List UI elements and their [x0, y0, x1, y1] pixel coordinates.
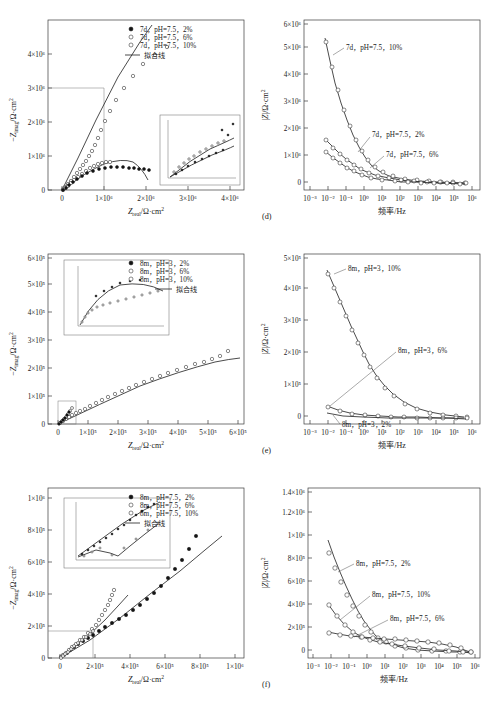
bode-e-xlabel: 频率/Hz — [378, 440, 406, 450]
legend-label-e-0: 8m，pH=3，2% — [140, 260, 189, 268]
bode-e-ylabel: |Z|/Ω·cm2 — [260, 323, 270, 354]
legend-label-f-3: 拟合线 — [144, 519, 165, 528]
nyquist-f-xlabel: Zreal/Ω·cm2 — [128, 674, 164, 684]
svg-text:1×10⁶: 1×10⁶ — [284, 152, 302, 160]
legend-label-d-3: 拟合线 — [144, 51, 165, 60]
svg-text:2×10⁵: 2×10⁵ — [86, 663, 104, 671]
nyquist-f-legend: 8m，pH=7.5，2% 8m，pH=7.5，6% 8m，pH=7.5，10% … — [125, 494, 198, 529]
legend-label-d-1: 7d，pH=7.5，6% — [140, 34, 193, 42]
nyquist-f-series-6pct — [59, 588, 115, 658]
svg-text:10⁶: 10⁶ — [470, 663, 480, 671]
svg-text:10⁴: 10⁴ — [431, 429, 441, 437]
svg-text:8×10⁵: 8×10⁵ — [191, 663, 209, 671]
svg-text:4×10⁵: 4×10⁵ — [121, 663, 139, 671]
bode-f-annot-10: 8m，pH=7.5，10% — [372, 591, 430, 599]
bode-e-curve-2 — [327, 413, 466, 419]
svg-text:0: 0 — [41, 655, 45, 663]
bode-e-annot-2: 8m，pH=3，2% — [342, 421, 391, 429]
svg-text:10⁴: 10⁴ — [434, 663, 444, 671]
svg-text:10⁻²: 10⁻² — [321, 429, 334, 437]
bode-f-frame — [308, 488, 480, 658]
legend-label-e-1: 8m，pH=3，6% — [140, 268, 189, 276]
svg-text:2×10⁵: 2×10⁵ — [28, 365, 46, 373]
panel-id-d: (d) — [262, 212, 272, 221]
svg-text:10¹: 10¹ — [377, 195, 386, 203]
figure-row-e: −Zimag/Ω·cm2 0 1×10⁵ 2×10⁵ 3×10⁵ 4×10⁵ 5… — [0, 234, 503, 468]
bode-chart-e: |Z|/Ω·cm2 0 1×10⁵ 2×10⁵ 3×10⁵ 4×10⁵ 5×10… — [258, 234, 503, 468]
svg-text:10⁶: 10⁶ — [467, 429, 477, 437]
panel-id-f: (f) — [262, 680, 270, 689]
bode-d-points-10 — [324, 40, 467, 185]
bode-e-annot-10: 8m，pH=3，10% — [348, 265, 401, 273]
svg-text:6×10⁵: 6×10⁵ — [28, 255, 46, 263]
bode-e-annotations: 8m，pH=3，10% 8m，pH=3，6% 8m，pH=3，2% — [330, 265, 447, 429]
svg-text:10⁻²: 10⁻² — [321, 195, 334, 203]
svg-text:10²: 10² — [395, 429, 404, 437]
svg-text:0: 0 — [297, 413, 301, 421]
svg-text:1×10⁶: 1×10⁶ — [28, 495, 46, 503]
nyquist-d-xlabel: Zreal/Ω·cm2 — [128, 206, 164, 216]
bode-d-annot-10: 7d，pH=7.5，10% — [346, 44, 402, 52]
svg-text:6×10⁶: 6×10⁶ — [284, 21, 302, 29]
svg-text:0: 0 — [297, 179, 301, 187]
svg-text:1×10⁶: 1×10⁶ — [95, 195, 113, 203]
svg-text:3×10⁶: 3×10⁶ — [179, 195, 197, 203]
svg-text:2×10⁶: 2×10⁶ — [137, 195, 155, 203]
svg-text:1×10⁵: 1×10⁵ — [79, 429, 97, 437]
svg-text:6×10⁵: 6×10⁵ — [156, 663, 174, 671]
svg-text:10¹: 10¹ — [380, 663, 389, 671]
legend-label-f-1: 8m，pH=7.5，6% — [140, 502, 195, 510]
svg-text:0: 0 — [60, 195, 64, 203]
legend-label-f-0: 8m，pH=7.5，2% — [140, 494, 195, 502]
nyquist-e-legend: 8m，pH=3，2% 8m，pH=3，6% 8m，pH=3，10% 拟合线 — [129, 260, 197, 295]
svg-text:10¹: 10¹ — [377, 429, 386, 437]
legend-label-d-0: 7d，pH=7.5，2% — [140, 26, 193, 34]
bode-e-annot-6: 8m，pH=3，6% — [398, 347, 447, 355]
svg-text:4×10⁶: 4×10⁶ — [284, 71, 302, 79]
svg-text:2×10⁵: 2×10⁵ — [28, 623, 46, 631]
nyquist-f-xticks: 0 2×10⁵ 4×10⁵ 6×10⁵ 8×10⁵ 1×10⁶ — [58, 654, 244, 671]
svg-text:10⁰: 10⁰ — [362, 663, 372, 671]
svg-text:0: 0 — [41, 421, 45, 429]
nyquist-d-fitline-10 — [62, 25, 152, 190]
svg-text:5×10⁵: 5×10⁵ — [28, 281, 46, 289]
bode-chart-f: |Z|/Ω·cm2 0 2×10⁵ 4×10⁵ 6×10⁵ 8×10⁵ — [258, 468, 503, 702]
legend-label-e-2: 8m，pH=3，10% — [140, 276, 193, 284]
svg-text:0: 0 — [58, 663, 62, 671]
svg-text:2×10⁵: 2×10⁵ — [109, 429, 127, 437]
bode-chart-d: |Z|/Ω·cm2 0 1×10⁶ 2×10⁶ 3×10⁶ 4×10⁶ 5×10… — [258, 0, 503, 234]
eis-figure-grid: −Zimag/Ω·cm2 0 1×10⁶ 2×10⁶ 3×10⁶ 4×10⁶ — [0, 0, 503, 702]
svg-text:10⁻¹: 10⁻¹ — [339, 429, 352, 437]
nyquist-d-ylabel: −Zimag/Ω·cm2 — [8, 98, 18, 142]
svg-text:6×10⁵: 6×10⁵ — [288, 578, 306, 586]
bode-d-annot-6: 7d，pH=7.5，6% — [386, 151, 439, 159]
svg-text:10⁰: 10⁰ — [359, 429, 369, 437]
svg-text:6×10⁵: 6×10⁵ — [229, 429, 247, 437]
bode-d-xlabel: 频率/Hz — [378, 206, 406, 216]
svg-text:10⁻³: 10⁻³ — [303, 195, 317, 203]
svg-text:4×10⁵: 4×10⁵ — [169, 429, 187, 437]
svg-text:1.2×10⁶: 1.2×10⁶ — [282, 509, 305, 517]
bode-f-annot-2: 8m，pH=7.5，2% — [356, 560, 411, 568]
nyquist-chart-d: −Zimag/Ω·cm2 0 1×10⁶ 2×10⁶ 3×10⁶ 4×10⁶ — [0, 0, 258, 234]
svg-text:3×10⁵: 3×10⁵ — [284, 317, 302, 325]
svg-text:10²: 10² — [398, 663, 407, 671]
svg-text:4×10⁵: 4×10⁵ — [284, 285, 302, 293]
nyquist-d-series-10pct — [61, 45, 168, 190]
svg-text:2×10⁶: 2×10⁶ — [284, 125, 302, 133]
svg-text:3×10⁵: 3×10⁵ — [139, 429, 157, 437]
nyquist-e-fitline — [58, 358, 240, 424]
nyquist-f-zoom-guide — [48, 631, 93, 658]
nyquist-e-xlabel: Zreal/Ω·cm2 — [128, 440, 164, 450]
legend-label-d-2: 7d，pH=7.5，10% — [140, 42, 196, 50]
svg-text:4×10⁵: 4×10⁵ — [288, 601, 306, 609]
svg-text:0: 0 — [41, 187, 45, 195]
legend-label-e-3: 拟合线 — [176, 285, 197, 294]
svg-text:1×10⁵: 1×10⁵ — [28, 393, 46, 401]
svg-text:10⁻¹: 10⁻¹ — [342, 663, 355, 671]
svg-text:4×10⁵: 4×10⁵ — [28, 591, 46, 599]
svg-text:10⁵: 10⁵ — [452, 663, 462, 671]
svg-text:10³: 10³ — [413, 429, 423, 437]
svg-text:10⁻¹: 10⁻¹ — [339, 195, 352, 203]
svg-text:10⁵: 10⁵ — [449, 429, 459, 437]
